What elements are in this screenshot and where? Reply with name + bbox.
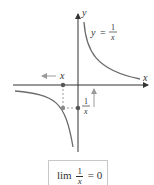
- limit-expression: lim 1 x = 0: [57, 167, 102, 185]
- point-reciprocal-on-y-axis: [76, 106, 80, 110]
- limit-den: x: [76, 177, 83, 185]
- limit-box: lim 1 x = 0: [48, 160, 108, 185]
- reciprocal-den: x: [83, 107, 88, 116]
- curve-label-eq: =: [100, 27, 106, 38]
- limit-fraction: 1 x: [76, 167, 83, 185]
- y-axis-label: y: [81, 7, 87, 18]
- reciprocal-num: 1: [84, 97, 88, 106]
- moving-x-label: x: [59, 70, 65, 81]
- x-axis-label: x: [142, 72, 148, 83]
- limit-lim: lim: [57, 169, 72, 181]
- limit-equals: = 0: [88, 169, 102, 181]
- hyperbola-diagram: y x x y = 1 x 1 x: [0, 0, 154, 185]
- point-x-on-axis: [61, 83, 65, 87]
- hyperbola-branch-left: [15, 91, 73, 147]
- point-on-curve: [61, 106, 65, 110]
- curve-label-y: y: [90, 27, 96, 38]
- curve-label-num: 1: [111, 23, 115, 32]
- curve-label-den: x: [110, 33, 115, 42]
